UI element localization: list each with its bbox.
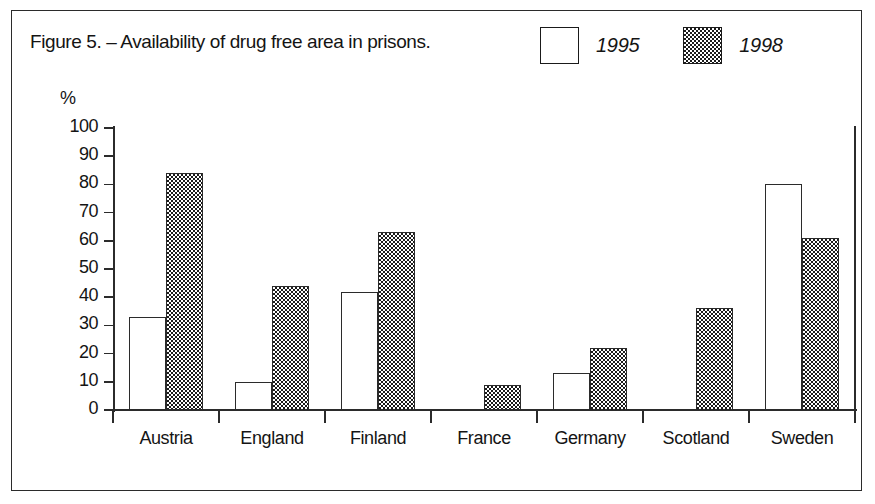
bar-sweden-1998 <box>802 238 839 410</box>
x-axis-category-label: Sweden <box>771 428 834 449</box>
white-square-icon <box>540 27 579 64</box>
y-axis-tick <box>104 127 113 129</box>
x-axis-tick <box>324 410 326 423</box>
y-axis-tick <box>104 353 113 355</box>
figure-page: Figure 5. – Availability of drug free ar… <box>0 0 875 504</box>
x-axis-category-label: Austria <box>139 428 192 449</box>
x-axis-tick <box>112 410 114 423</box>
legend-entry-1998: 1998 <box>683 27 782 64</box>
y-axis-tick-label: 30 <box>50 313 98 334</box>
bar-england-1998 <box>272 286 309 410</box>
x-axis-category-label: Scotland <box>663 428 730 449</box>
bar-sweden-1995 <box>765 184 802 410</box>
x-axis-category-label: England <box>240 428 303 449</box>
bar-germany-1995 <box>553 373 590 410</box>
y-axis-tick <box>104 155 113 157</box>
bar-finland-1995 <box>341 292 378 410</box>
bar-austria-1998 <box>166 173 203 410</box>
y-axis-tick <box>104 296 113 298</box>
y-axis-tick-label: 60 <box>50 229 98 250</box>
y-axis-tick <box>104 268 113 270</box>
y-axis-tick <box>104 212 113 214</box>
checkered-square-icon <box>683 27 722 64</box>
y-axis-tick-label: 0 <box>50 398 98 419</box>
bar-germany-1998 <box>590 348 627 410</box>
y-axis-unit-label: % <box>60 88 76 109</box>
x-axis-tick <box>218 410 220 423</box>
y-axis-tick-label: 40 <box>50 285 98 306</box>
x-axis-tick <box>430 410 432 423</box>
x-axis-tick <box>854 410 856 423</box>
x-axis-tick <box>748 410 750 423</box>
y-axis-tick-label: 70 <box>50 201 98 222</box>
legend-entry-1995: 1995 <box>540 27 639 64</box>
y-axis-tick-label: 50 <box>50 257 98 278</box>
y-axis-tick <box>104 240 113 242</box>
bar-france-1998 <box>484 385 521 410</box>
bar-scotland-1998 <box>696 308 733 410</box>
x-axis-tick <box>642 410 644 423</box>
y-axis-tick <box>104 184 113 186</box>
x-axis-category-label: Finland <box>350 428 406 449</box>
plot-area <box>113 128 855 410</box>
bar-england-1995 <box>235 382 272 410</box>
chart-legend: 1995 1998 <box>540 27 783 64</box>
figure-title: Figure 5. – Availability of drug free ar… <box>30 31 431 53</box>
bar-finland-1998 <box>378 232 415 410</box>
x-axis-category-label: France <box>457 428 511 449</box>
legend-label-1995: 1995 <box>596 34 639 57</box>
x-axis-category-label: Germany <box>554 428 625 449</box>
y-axis-tick <box>104 381 113 383</box>
y-axis-tick-label: 90 <box>50 144 98 165</box>
y-axis-tick-label: 20 <box>50 342 98 363</box>
y-axis-tick-label: 80 <box>50 172 98 193</box>
x-axis-tick <box>536 410 538 423</box>
legend-label-1998: 1998 <box>739 34 782 57</box>
y-axis-tick <box>104 325 113 327</box>
bar-austria-1995 <box>129 317 166 410</box>
y-axis-tick-label: 100 <box>50 116 98 137</box>
y-axis-tick-label: 10 <box>50 370 98 391</box>
